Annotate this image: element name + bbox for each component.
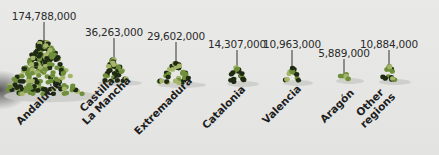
value-label-extremadura: 29,602,000 (147, 30, 205, 42)
value-label-andalucia: 174,788,000 (12, 10, 77, 22)
value-label-other: 10,884,000 (360, 38, 418, 50)
value-label-valencia: 10,963,000 (263, 38, 321, 50)
value-label-castilla: 36,263,000 (85, 26, 143, 38)
olive-production-chart: 174,788,000 36,263,000 29,602,000 14,307… (0, 0, 439, 155)
olive-piles (0, 0, 439, 155)
value-label-catalonia: 14,307,000 (208, 38, 266, 50)
